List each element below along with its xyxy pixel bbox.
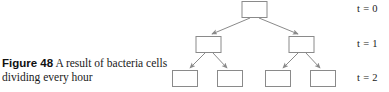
time-label-t1: t = 1 [357, 38, 378, 49]
figure-caption-label: Figure 48 [2, 57, 53, 69]
cell-box-right [289, 37, 314, 53]
cell-row-t0 [242, 2, 267, 18]
branch-right-to-child-3 [283, 53, 298, 68]
time-label-t0: t = 0 [357, 3, 378, 14]
branch-left-to-child-2 [213, 53, 227, 68]
cell-box-leaf-3 [266, 71, 291, 87]
branch-root-to-left [212, 18, 250, 34]
cell-row-t2 [173, 71, 336, 87]
branch-right-to-child-4 [306, 53, 320, 68]
cell-box-root [242, 2, 267, 18]
cell-row-t1 [196, 37, 314, 53]
cell-box-leaf-4 [311, 71, 336, 87]
cell-box-leaf-2 [218, 71, 243, 87]
time-label-t2: t = 2 [357, 72, 378, 83]
figure-caption: Figure 48 A result of bacteria cells div… [2, 56, 172, 84]
figure-container: t = 0 t = 1 t = 2 Figure 48 A result of … [0, 0, 389, 92]
branch-group-level-0-to-1 [212, 18, 298, 34]
cell-box-left [196, 37, 221, 53]
branch-group-level-1-to-2 [190, 53, 320, 68]
branch-left-to-child-1 [190, 53, 205, 68]
branch-root-to-right [259, 18, 298, 34]
cell-box-leaf-1 [173, 71, 198, 87]
